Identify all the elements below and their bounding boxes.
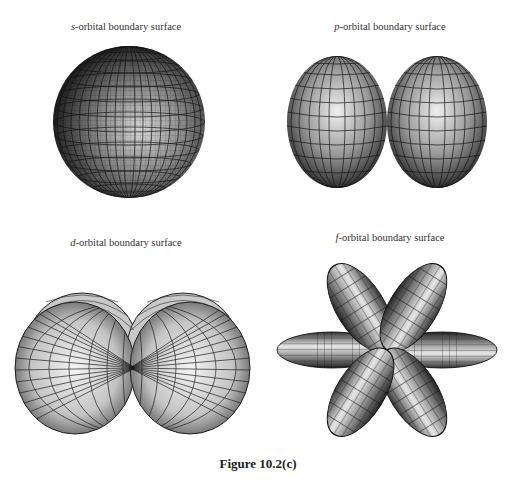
p-orbital-lobes <box>287 56 487 188</box>
f-orbital-lobes <box>277 253 497 448</box>
d-orbital-lobes <box>15 290 250 434</box>
s-orbital-sphere <box>53 46 205 198</box>
figure-caption: Figure 10.2(c) <box>219 456 296 472</box>
orbital-figures <box>0 0 516 480</box>
